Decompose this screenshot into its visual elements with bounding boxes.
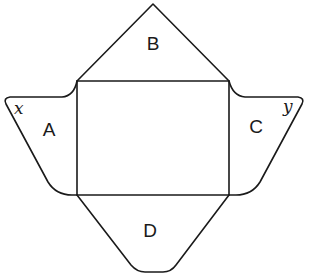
label-x: x bbox=[14, 98, 24, 118]
label-y: y bbox=[282, 96, 293, 116]
label-c: C bbox=[249, 116, 263, 137]
center-panel bbox=[77, 81, 229, 195]
label-d: D bbox=[143, 220, 157, 241]
label-a: A bbox=[43, 119, 56, 140]
label-b: B bbox=[147, 33, 160, 54]
envelope-diagram: B A C D x y bbox=[0, 0, 312, 277]
